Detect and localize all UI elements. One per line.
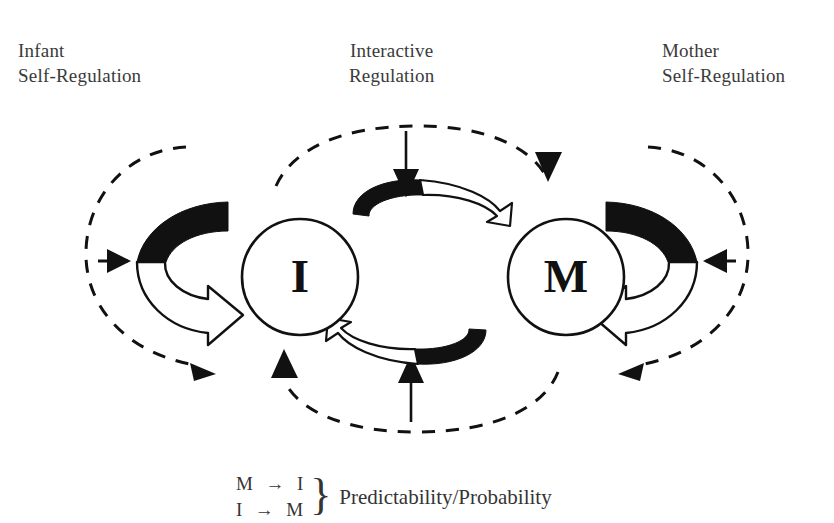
label-interactive-line1: Interactive <box>349 38 434 63</box>
label-infant-line2: Self-Regulation <box>18 63 141 88</box>
label-mother-line1: Mother <box>662 38 785 63</box>
caption-pair-infant-to-mother: I → M <box>236 497 304 523</box>
node-label-mother: M <box>506 253 626 300</box>
label-mother-line2: Self-Regulation <box>662 63 785 88</box>
node-label-infant: I <box>240 253 360 300</box>
caption-term-label: Predictability/Probability <box>339 484 551 510</box>
arrowhead-center-bottom-end <box>271 349 298 378</box>
label-infant-self-regulation: Infant Self-Regulation <box>18 38 141 88</box>
curved-arrow-bottom-center <box>326 318 486 364</box>
self-regulation-arrow-infant <box>137 202 243 345</box>
caption-predictability: M → I I → M } Predictability/Probability <box>236 471 552 523</box>
label-mother-self-regulation: Mother Self-Regulation <box>662 38 785 88</box>
caption-pair-mother-to-infant: M → I <box>236 471 304 497</box>
mutual-regulation-diagram: Infant Self-Regulation Interactive Regul… <box>0 0 834 523</box>
caption-brace: } <box>310 473 331 517</box>
caption-direction-pairs: M → I I → M <box>236 471 304 523</box>
dashed-loop-center-top <box>276 126 562 186</box>
label-interactive-regulation: Interactive Regulation <box>349 38 434 88</box>
arrowhead-right-loop-end <box>618 363 644 381</box>
label-infant-line1: Infant <box>18 38 141 63</box>
arrowhead-left-loop-end <box>190 363 216 381</box>
label-interactive-line2: Regulation <box>349 63 434 88</box>
curved-arrow-top-center <box>353 180 512 226</box>
